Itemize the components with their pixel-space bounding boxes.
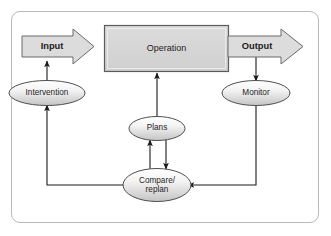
operation-box: [105, 26, 229, 72]
output-block-arrow: [228, 29, 303, 64]
monitor-ellipse: [222, 81, 290, 106]
diagram-canvas: Input Operation Output Intervention Moni…: [0, 0, 331, 236]
diagram-shapes: [0, 0, 331, 236]
connector-compare-to-intervention: [47, 105, 127, 185]
input-block-arrow: [22, 29, 94, 64]
plans-ellipse: [129, 117, 185, 141]
compare-replan-ellipse: [123, 169, 191, 202]
connector-monitor-to-compare: [188, 105, 256, 185]
intervention-ellipse: [9, 81, 85, 106]
